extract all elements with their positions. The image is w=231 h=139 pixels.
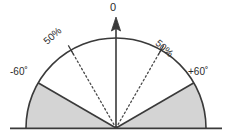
angle-label-plus-60: +60˚ bbox=[188, 67, 208, 77]
arc-tick-left-50-percent bbox=[68, 45, 73, 54]
diagram-canvas: 0 -60˚ +60˚ 50% 50% bbox=[0, 0, 231, 139]
angle-label-minus-60: -60˚ bbox=[10, 67, 28, 77]
boresight-label: 0 bbox=[110, 2, 116, 13]
